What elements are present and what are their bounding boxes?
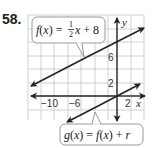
g-equation: g(x) = f(x) + r xyxy=(64,128,131,142)
graph: −10 −6 2 2 6 x y f(x) = 1 2 x + 8 g(x) =… xyxy=(0,0,153,148)
y-tick-6: 6 xyxy=(108,52,114,63)
f-line xyxy=(31,57,87,86)
y-axis-label: y xyxy=(121,16,127,28)
f-equation-rhs: x + 8 xyxy=(74,23,99,37)
x-tick-minus-6: −6 xyxy=(69,98,81,109)
x-tick-2: 2 xyxy=(125,98,131,109)
x-axis-label: x xyxy=(135,97,141,109)
x-tick-minus-10: −10 xyxy=(41,98,58,109)
f-frac-den: 2 xyxy=(69,30,73,39)
f-equation-lhs: f(x) = xyxy=(36,23,63,37)
y-tick-2: 2 xyxy=(108,78,114,89)
f-frac-num: 1 xyxy=(69,20,73,29)
